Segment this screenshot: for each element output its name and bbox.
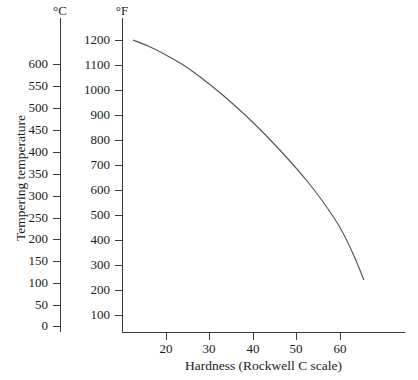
celsius-tick-mark <box>53 326 61 327</box>
celsius-tick-mark <box>53 218 61 219</box>
celsius-tick-mark <box>53 86 61 87</box>
hardness-tick-label: 30 <box>192 342 226 356</box>
celsius-tick-label: 50 <box>14 298 48 311</box>
celsius-axis-line <box>60 18 61 332</box>
celsius-tick-label-wrap: 100 <box>14 276 48 289</box>
hardness-tick-mark <box>253 332 254 340</box>
fahrenheit-tick-label-wrap: 1000 <box>72 83 110 96</box>
fahrenheit-tick-label: 100 <box>72 308 110 321</box>
celsius-tick-mark <box>53 283 61 284</box>
hardness-tick-label: 60 <box>323 342 357 356</box>
hardness-tick-label: 40 <box>236 342 270 356</box>
fahrenheit-tick-mark <box>115 215 123 216</box>
hardness-tick-mark <box>296 332 297 340</box>
fahrenheit-tick-mark <box>115 90 123 91</box>
hardness-axis-line <box>122 332 405 333</box>
fahrenheit-tick-mark <box>115 40 123 41</box>
curve-layer <box>0 0 418 380</box>
fahrenheit-tick-label: 300 <box>72 258 110 271</box>
celsius-tick-mark <box>53 305 61 306</box>
celsius-tick-mark <box>53 152 61 153</box>
celsius-tick-mark <box>53 196 61 197</box>
celsius-tick-mark <box>53 174 61 175</box>
fahrenheit-tick-label: 800 <box>72 133 110 146</box>
fahrenheit-tick-mark <box>115 265 123 266</box>
fahrenheit-tick-mark <box>115 315 123 316</box>
celsius-tick-label-wrap: 0 <box>14 319 48 332</box>
fahrenheit-tick-label-wrap: 1100 <box>72 58 110 71</box>
fahrenheit-tick-label: 700 <box>72 158 110 171</box>
celsius-tick-label-wrap: 50 <box>14 298 48 311</box>
fahrenheit-tick-mark <box>115 165 123 166</box>
hardness-tick-mark <box>166 332 167 340</box>
fahrenheit-tick-label-wrap: 200 <box>72 283 110 296</box>
celsius-tick-label: 0 <box>14 319 48 332</box>
hardness-tick-label: 50 <box>279 342 313 356</box>
fahrenheit-tick-label: 900 <box>72 108 110 121</box>
celsius-tick-mark <box>53 261 61 262</box>
celsius-tick-label: 100 <box>14 276 48 289</box>
celsius-tick-mark <box>53 239 61 240</box>
celsius-tick-mark <box>53 64 61 65</box>
fahrenheit-tick-label-wrap: 1200 <box>72 33 110 46</box>
fahrenheit-tick-mark <box>115 190 123 191</box>
fahrenheit-tick-label-wrap: 100 <box>72 308 110 321</box>
fahrenheit-tick-label: 1000 <box>72 83 110 96</box>
fahrenheit-tick-mark <box>115 290 123 291</box>
fahrenheit-tick-label-wrap: 300 <box>72 258 110 271</box>
fahrenheit-tick-label: 600 <box>72 183 110 196</box>
y-axis-title: Tempering temperature <box>13 83 29 273</box>
fahrenheit-tick-label: 500 <box>72 208 110 221</box>
celsius-unit-label: °C <box>40 3 80 19</box>
tempering-temperature-chart: °C °F 6005505004504003503002502001501005… <box>0 0 418 380</box>
celsius-tick-label-wrap: 600 <box>14 57 48 70</box>
fahrenheit-tick-mark <box>115 140 123 141</box>
x-axis-title: Hardness (Rockwell C scale) <box>122 358 405 374</box>
hardness-tick-label: 20 <box>149 342 183 356</box>
fahrenheit-tick-label-wrap: 900 <box>72 108 110 121</box>
hardness-tick-mark <box>340 332 341 340</box>
tempering-curve <box>133 40 364 280</box>
fahrenheit-tick-label-wrap: 500 <box>72 208 110 221</box>
fahrenheit-unit-label: °F <box>102 3 142 19</box>
fahrenheit-tick-mark <box>115 115 123 116</box>
fahrenheit-tick-mark <box>115 240 123 241</box>
celsius-tick-label: 600 <box>14 57 48 70</box>
fahrenheit-tick-label-wrap: 700 <box>72 158 110 171</box>
fahrenheit-tick-label-wrap: 400 <box>72 233 110 246</box>
celsius-tick-mark <box>53 108 61 109</box>
fahrenheit-tick-label: 200 <box>72 283 110 296</box>
celsius-tick-mark <box>53 130 61 131</box>
fahrenheit-tick-label: 1200 <box>72 33 110 46</box>
fahrenheit-tick-label-wrap: 600 <box>72 183 110 196</box>
hardness-tick-mark <box>209 332 210 340</box>
fahrenheit-tick-label-wrap: 800 <box>72 133 110 146</box>
fahrenheit-tick-label: 1100 <box>72 58 110 71</box>
fahrenheit-tick-mark <box>115 65 123 66</box>
fahrenheit-tick-label: 400 <box>72 233 110 246</box>
